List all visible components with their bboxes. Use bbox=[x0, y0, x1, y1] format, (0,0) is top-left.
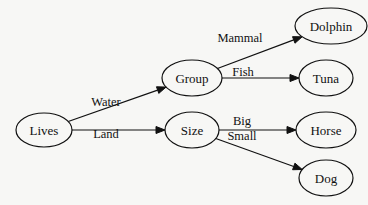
arrowhead-icon bbox=[293, 163, 303, 170]
arrowhead-icon bbox=[293, 37, 303, 44]
edge-lives-group: Water bbox=[68, 87, 166, 122]
node-label: Dolphin bbox=[310, 19, 353, 34]
edge-label: Big bbox=[233, 114, 252, 128]
edge-group-tuna: Fish bbox=[222, 65, 299, 82]
edge-size-dog: Small bbox=[216, 129, 302, 170]
node-label: Group bbox=[175, 71, 208, 86]
node-group: Group bbox=[162, 60, 222, 96]
edge-label: Fish bbox=[232, 65, 254, 79]
edge-lives-size: Land bbox=[72, 127, 165, 142]
arrowhead-icon bbox=[290, 75, 299, 82]
node-label: Lives bbox=[30, 123, 59, 138]
edge-label: Water bbox=[91, 95, 121, 109]
node-label: Size bbox=[181, 123, 204, 138]
nodes-layer: LivesGroupSizeDolphinTunaHorseDog bbox=[16, 8, 367, 196]
arrowhead-icon bbox=[156, 127, 165, 134]
decision-tree-diagram: WaterLandMammalFishBigSmall LivesGroupSi… bbox=[0, 0, 368, 205]
node-dolphin: Dolphin bbox=[295, 8, 367, 44]
node-tuna: Tuna bbox=[299, 60, 353, 96]
edges-layer: WaterLandMammalFishBigSmall bbox=[68, 31, 302, 170]
node-lives: Lives bbox=[16, 113, 72, 147]
node-label: Dog bbox=[315, 171, 338, 186]
node-size: Size bbox=[165, 112, 219, 148]
edge-group-dolphin: Mammal bbox=[217, 31, 302, 68]
arrowhead-icon bbox=[287, 127, 296, 134]
edge-label: Small bbox=[227, 129, 257, 143]
arrowhead-icon bbox=[156, 87, 166, 94]
node-label: Tuna bbox=[313, 71, 339, 86]
edge-label: Mammal bbox=[217, 31, 263, 45]
node-dog: Dog bbox=[299, 160, 353, 196]
edge-label: Land bbox=[93, 127, 119, 141]
node-horse: Horse bbox=[296, 112, 356, 148]
node-label: Horse bbox=[310, 123, 341, 138]
